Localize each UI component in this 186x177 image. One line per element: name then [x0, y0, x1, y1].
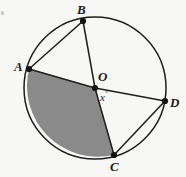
point-label-D: D — [170, 96, 179, 109]
segment-BO — [83, 21, 95, 88]
scan-artifact-speck — [1, 11, 4, 15]
point-dot-A — [26, 66, 32, 72]
point-label-C: C — [110, 160, 119, 173]
figure-canvas — [0, 0, 186, 177]
chord-CD — [114, 101, 165, 155]
point-label-A: A — [14, 60, 23, 73]
point-dot-O — [92, 85, 98, 91]
circle-geometry-figure: A B C D O x° — [0, 0, 186, 177]
angle-label-x: x° — [100, 90, 108, 103]
point-label-O: O — [98, 70, 107, 83]
point-dot-B — [80, 18, 86, 24]
degree-symbol: ° — [105, 89, 108, 98]
point-dot-D — [162, 98, 168, 104]
point-dot-C — [111, 152, 117, 158]
point-label-B: B — [77, 3, 86, 16]
